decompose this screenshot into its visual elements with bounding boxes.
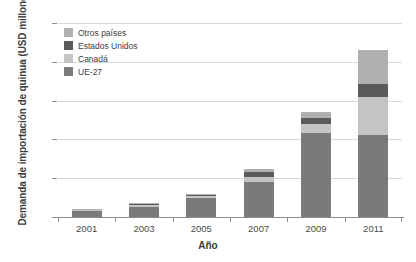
y-tick-mark — [52, 139, 57, 140]
bar-segment-estados-unidos — [129, 204, 159, 205]
gridline — [58, 139, 402, 140]
legend-label: UE-27 — [78, 67, 102, 77]
gridline — [58, 178, 402, 179]
y-tick-mark — [52, 178, 57, 179]
legend: Otros paísesEstados UnidosCanadáUE-27 — [64, 27, 184, 79]
legend-swatch-icon — [64, 41, 73, 50]
x-tick-label: 2001 — [57, 223, 117, 234]
legend-swatch-icon — [64, 54, 73, 63]
bar-segment-canadá — [129, 205, 159, 207]
x-tick-label: 2009 — [286, 223, 346, 234]
legend-swatch-icon — [64, 67, 73, 76]
bar-segment-otros-países — [301, 112, 331, 118]
bar-segment-estados-unidos — [301, 118, 331, 124]
bar-2009 — [301, 23, 331, 217]
legend-label: Canadá — [78, 54, 108, 64]
legend-swatch-icon — [64, 28, 73, 37]
bar-segment-canadá — [301, 124, 331, 133]
bar-segment-estados-unidos — [244, 172, 274, 177]
x-tick-label: 2007 — [229, 223, 289, 234]
bar-segment-ue-27 — [72, 210, 102, 217]
gridline — [58, 23, 402, 24]
bar-segment-ue-27 — [129, 207, 159, 217]
bar-segment-ue-27 — [301, 133, 331, 217]
bar-2005 — [186, 23, 216, 217]
x-axis-title: Año — [0, 240, 416, 251]
bar-segment-otros-países — [129, 203, 159, 204]
bar-segment-canadá — [186, 196, 216, 198]
bar-segment-canadá — [358, 97, 388, 134]
x-tick-label: 2003 — [114, 223, 174, 234]
legend-item: Estados Unidos — [64, 40, 184, 52]
legend-label: Estados Unidos — [78, 41, 138, 51]
y-tick-mark — [52, 62, 57, 63]
bar-segment-canadá — [244, 177, 274, 182]
legend-label: Otros países — [78, 28, 126, 38]
bar-segment-otros-países — [244, 169, 274, 173]
bar-segment-otros-países — [358, 50, 388, 84]
legend-item: Otros países — [64, 27, 184, 39]
bar-segment-ue-27 — [186, 198, 216, 217]
x-tick-label: 2005 — [171, 223, 231, 234]
legend-item: UE-27 — [64, 66, 184, 78]
y-tick-mark — [52, 23, 57, 24]
bar-2011 — [358, 23, 388, 217]
y-tick-mark — [52, 101, 57, 102]
gridline — [58, 101, 402, 102]
x-axis-line — [52, 217, 404, 218]
quinoa-import-demand-chart: Demanda de importación de quinua (USD mi… — [0, 0, 416, 262]
x-tick-label: 2011 — [343, 223, 403, 234]
bar-segment-otros-países — [186, 194, 216, 195]
bar-segment-canadá — [72, 210, 102, 211]
bar-segment-ue-27 — [358, 135, 388, 217]
y-axis-title: Demanda de importación de quinua (USD mi… — [17, 6, 28, 226]
bar-segment-estados-unidos — [186, 195, 216, 197]
legend-item: Canadá — [64, 53, 184, 65]
bar-2007 — [244, 23, 274, 217]
bar-segment-estados-unidos — [358, 84, 388, 98]
bar-segment-ue-27 — [244, 182, 274, 217]
